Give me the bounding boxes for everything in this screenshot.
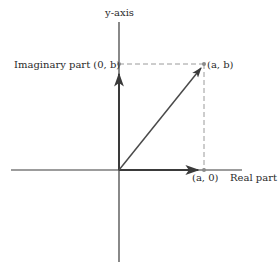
point-ab-label: (a, b) xyxy=(207,59,234,70)
complex-vector xyxy=(119,68,201,170)
point-a0-label: (a, 0) xyxy=(192,172,219,183)
real-part-label: Real part xyxy=(230,172,277,183)
y-axis-label: y-axis xyxy=(104,7,134,18)
point-ab xyxy=(202,62,206,66)
imaginary-part-label: Imaginary part (0, b) xyxy=(14,59,120,70)
complex-plane-diagram: y-axis Imaginary part (0, b) (a, b) (a, … xyxy=(0,0,278,272)
